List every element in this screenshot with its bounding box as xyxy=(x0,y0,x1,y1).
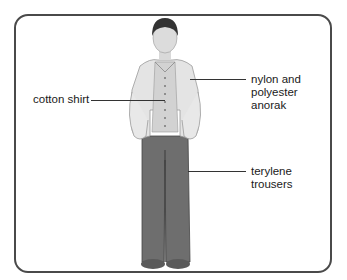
shirt-leader-line xyxy=(91,100,165,101)
trousers-leader-line xyxy=(188,171,246,172)
head-illustration xyxy=(152,18,178,60)
label-text: trousers xyxy=(251,178,293,191)
label-trousers: terylene trousers xyxy=(251,165,293,191)
person-figure xyxy=(0,0,347,280)
shirt-illustration xyxy=(152,62,178,132)
label-anorak: nylon and polyester anorak xyxy=(251,73,301,112)
label-text: polyester xyxy=(251,86,301,99)
label-text: terylene xyxy=(251,165,293,178)
label-text: nylon and xyxy=(251,73,301,86)
anorak-leader-line xyxy=(190,79,246,80)
label-cotton-shirt: cotton shirt xyxy=(33,93,89,106)
label-text: cotton shirt xyxy=(33,93,89,105)
trousers-illustration xyxy=(141,136,190,269)
label-text: anorak xyxy=(251,99,301,112)
